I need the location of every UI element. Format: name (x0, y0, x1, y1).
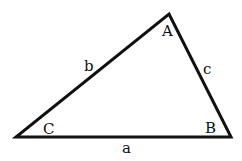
triangle-diagram: A B C a b c (0, 0, 242, 161)
side-label-b: b (84, 57, 94, 75)
vertex-label-c: C (43, 120, 54, 138)
vertex-label-a: A (161, 22, 173, 40)
triangle-shape (16, 14, 231, 137)
side-label-c: c (203, 60, 211, 78)
vertex-label-b: B (205, 119, 216, 137)
side-label-a: a (122, 139, 131, 157)
